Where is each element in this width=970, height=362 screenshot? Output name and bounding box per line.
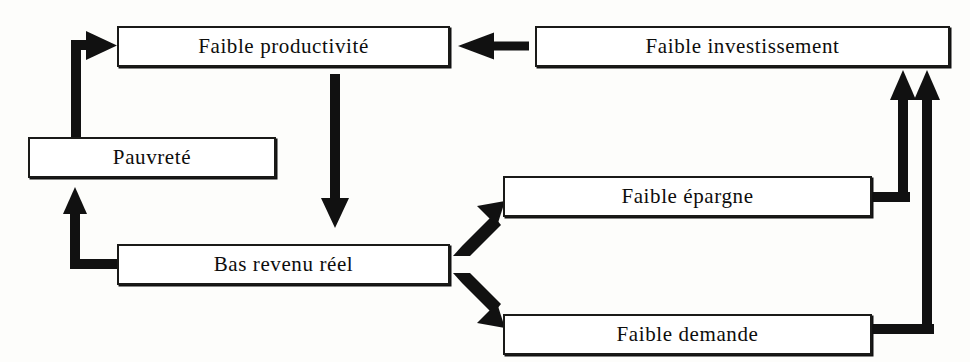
vicious-circle-diagram: Faible productivité Faible investissemen…: [0, 0, 970, 362]
edge-productivite-to-bas-revenu-icon: [321, 74, 349, 228]
edge-bas-revenu-to-pauvrete-icon: [63, 187, 120, 269]
node-pauvrete-label: Pauvreté: [113, 147, 191, 168]
node-faible-demande[interactable]: Faible demande: [503, 314, 872, 355]
node-bas-revenu-reel-label: Bas revenu réel: [214, 254, 354, 275]
node-faible-productivite-label: Faible productivité: [198, 36, 369, 57]
node-faible-epargne[interactable]: Faible épargne: [503, 176, 872, 217]
edge-pauvrete-to-productivite-icon: [71, 31, 117, 140]
edge-bas-revenu-to-demande-icon: [453, 273, 505, 328]
node-faible-demande-label: Faible demande: [617, 324, 759, 345]
node-faible-investissement-label: Faible investissement: [646, 36, 840, 57]
node-pauvrete[interactable]: Pauvreté: [28, 137, 276, 178]
edge-investissement-to-productivite-icon: [458, 33, 529, 60]
node-faible-productivite[interactable]: Faible productivité: [117, 26, 450, 67]
node-faible-epargne-label: Faible épargne: [621, 186, 753, 207]
edge-epargne-to-investissement-icon: [870, 70, 916, 202]
node-bas-revenu-reel[interactable]: Bas revenu réel: [117, 244, 450, 285]
edge-bas-revenu-to-epargne-icon: [453, 201, 505, 256]
node-faible-investissement[interactable]: Faible investissement: [535, 26, 950, 67]
